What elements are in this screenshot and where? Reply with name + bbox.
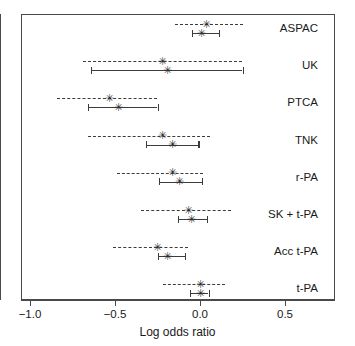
x-axis-title: Log odds ratio [0, 325, 355, 339]
study-label: PTCA [287, 96, 318, 108]
x-axis-tick [285, 300, 286, 306]
zero-reference-line [0, 14, 1, 300]
study-label: SK + t-PA [268, 208, 318, 220]
forest-plot: ASPACUKPTCATNKr-PASK + t-PAAcc t-PAt-PA … [0, 0, 355, 346]
study-label: t-PA [296, 282, 318, 294]
x-axis-tick-label: 0.0 [192, 308, 208, 320]
x-axis-tick [115, 300, 116, 306]
x-axis-line [21, 300, 335, 301]
x-axis-tick [200, 300, 201, 306]
study-label: Acc t-PA [274, 245, 318, 257]
x-axis-tick [30, 300, 31, 306]
study-label: ASPAC [280, 22, 318, 34]
study-label: TNK [295, 134, 318, 146]
study-label: r-PA [296, 171, 318, 183]
x-axis-tick-label: −1.0 [19, 308, 42, 320]
study-label: UK [302, 59, 318, 71]
x-axis-tick-label: 0.5 [277, 308, 293, 320]
x-axis-tick-label: −0.5 [104, 308, 127, 320]
